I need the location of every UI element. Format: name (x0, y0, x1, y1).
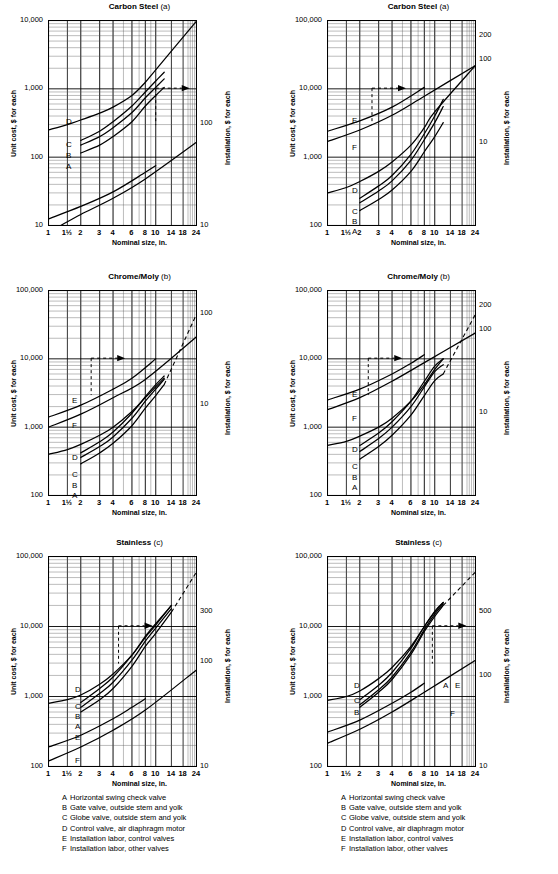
x-axis-label: Nominal size, in. (279, 780, 558, 787)
y-axis-label-right: Installation, $ for each (224, 629, 231, 703)
panel-title-text: Carbon Steel (109, 2, 158, 11)
curve-extension-dashed (443, 572, 475, 605)
curve-label-D: D (352, 186, 358, 195)
curve-label-C: C (352, 207, 358, 216)
chart-panel-carbon-steel-right: Carbon Steel (a)1001,00010,000100,000101… (279, 2, 558, 267)
chart-panel-stainless-left: Stainless (c)1001,00010,000100,000101003… (0, 538, 279, 808)
legend-item: EInstallation labor, control valves (341, 834, 465, 844)
xtick: 1 (39, 228, 57, 237)
ytick-right: 10 (200, 399, 208, 408)
curve-label-C: C (72, 470, 78, 479)
legend-item: BGate valve, outside stem and yolk (62, 803, 186, 813)
xtick: 24 (466, 498, 484, 507)
legend-key: F (341, 844, 349, 854)
xtick: 4 (104, 498, 122, 507)
ytick-left: 100 (0, 490, 43, 499)
y-axis-label-left: Unit cost, $ for each (289, 628, 296, 695)
curve-label-B: B (66, 151, 71, 160)
curve-E (49, 699, 146, 747)
ytick-left: 100,000 (0, 551, 43, 560)
x-axis-label: Nominal size, in. (279, 509, 558, 516)
panel-title-text: Stainless (116, 538, 151, 547)
panel-title-chrome-moly-left: Chrome/Moly (b) (0, 272, 279, 281)
curve-label-F: F (72, 421, 77, 430)
ytick-left: 100 (279, 490, 322, 499)
curve-label-C: C (66, 140, 72, 149)
ytick-right: 100 (200, 118, 213, 127)
y-axis-label-left: Unit cost, $ for each (10, 360, 17, 427)
y-axis-label-right: Installation, $ for each (224, 91, 231, 165)
legend-item: EInstallation labor, control valves (62, 834, 186, 844)
ytick-right: 100 (200, 656, 213, 665)
plot-area-chrome-moly-right (327, 290, 476, 496)
legend-key: B (62, 803, 70, 813)
ytick-left: 1,000 (0, 691, 43, 700)
legend-text: Gate valve, outside stem and yolk (349, 803, 462, 812)
xtick: 4 (383, 228, 401, 237)
ytick-left: 10 (0, 220, 43, 229)
ytick-right: 10 (479, 407, 487, 416)
legend-item: AHorizontal swing check valve (62, 793, 186, 803)
curve-E (49, 166, 156, 219)
xtick: 4 (104, 769, 122, 778)
x-axis-label: Nominal size, in. (0, 509, 279, 516)
ytick-left: 100,000 (279, 15, 322, 24)
curve-D (328, 65, 476, 192)
curve-C (360, 359, 443, 446)
curve-label-A: A (352, 483, 357, 492)
chart-panel-chrome-moly-left: Chrome/Moly (b)1001,00010,000100,0001010… (0, 272, 279, 537)
legend-item: CGlobe valve, outside stem and yolk (62, 813, 186, 823)
legend-item: FInstallation labor, other valves (341, 844, 465, 854)
legend-key: A (341, 793, 349, 803)
legend-text: Globe valve, outside stem and yolk (70, 813, 186, 822)
legend-key: D (341, 824, 349, 834)
xtick: 1 (39, 769, 57, 778)
panel-title-stainless-left: Stainless (c) (0, 538, 279, 547)
panel-title-text: Chrome/Moly (108, 272, 159, 281)
curve-label-D: D (352, 445, 358, 454)
ytick-left: 1,000 (279, 152, 322, 161)
ytick-right: 100 (479, 670, 492, 679)
legend-item: CGlobe valve, outside stem and yolk (341, 813, 465, 823)
legend-text: Installation labor, other valves (349, 844, 448, 853)
y-axis-label-right: Installation, $ for each (503, 361, 510, 435)
legend-item: FInstallation labor, other valves (62, 844, 186, 854)
panel-title-note: (a) (158, 2, 170, 11)
ytick-left: 1,000 (279, 691, 322, 700)
ytick-left: 100,000 (0, 285, 43, 294)
panel-title-carbon-steel-left: Carbon Steel (a) (0, 2, 279, 11)
curve-label-E: E (352, 390, 357, 399)
legend-text: Installation labor, control valves (349, 834, 453, 843)
legend-key: F (62, 844, 70, 854)
curve-label-A: A (72, 491, 77, 500)
y-axis-label-left: Unit cost, $ for each (10, 90, 17, 157)
curve-label-F: F (450, 709, 455, 718)
panel-title-text: Carbon Steel (388, 2, 437, 11)
legend-text: Horizontal swing check valve (70, 793, 166, 802)
ytick-right: 500 (479, 606, 492, 615)
panel-title-chrome-moly-right: Chrome/Moly (b) (279, 272, 558, 281)
legend-key: C (62, 813, 70, 823)
curve-F (328, 65, 476, 141)
curve-F (328, 660, 476, 743)
panel-title-text: Chrome/Moly (387, 272, 438, 281)
xtick: 1 (39, 498, 57, 507)
legend-key: A (62, 793, 70, 803)
curve-label-A: A (443, 681, 448, 690)
plot-svg (327, 556, 476, 767)
panel-title-text: Stainless (395, 538, 430, 547)
reference-arrow-annotation (368, 355, 402, 395)
panel-title-carbon-steel-right: Carbon Steel (a) (279, 2, 558, 11)
legend-text: Installation labor, control valves (70, 834, 174, 843)
xtick: 24 (466, 228, 484, 237)
curve-extension-dashed (443, 314, 475, 374)
legend-key: C (341, 813, 349, 823)
plot-svg (327, 290, 476, 496)
plot-area-stainless-right (327, 556, 476, 767)
legend-text: Control valve, air diaphragm motor (349, 824, 464, 833)
curve-B (360, 365, 443, 452)
x-axis-label: Nominal size, in. (0, 239, 279, 246)
ytick-left: 100 (0, 152, 43, 161)
y-axis-label-right: Installation, $ for each (503, 629, 510, 703)
legend-text: Globe valve, outside stem and yolk (349, 813, 465, 822)
